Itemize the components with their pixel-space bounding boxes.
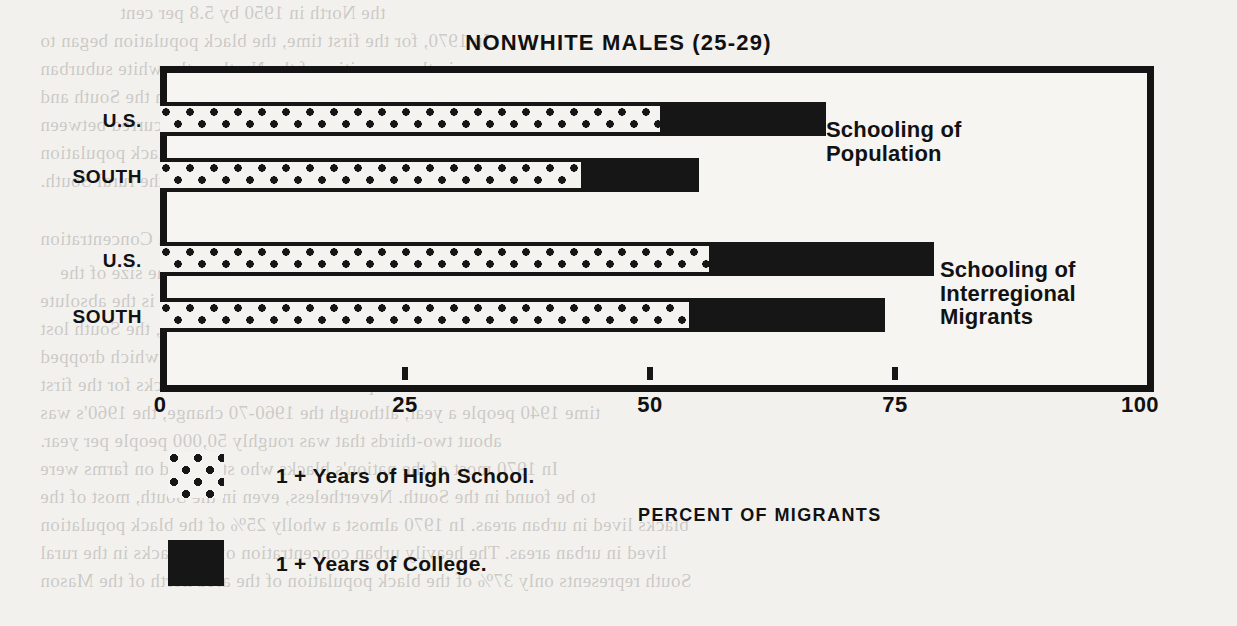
- x-axis-tick: [402, 367, 408, 380]
- bar-segment-high-school: [160, 102, 660, 136]
- bar-segment-high-school: [160, 158, 581, 192]
- category-label-3: SOUTH: [73, 306, 143, 328]
- legend-swatch-dotted-icon: [168, 452, 224, 498]
- legend-label-college: 1 + Years of College.: [276, 552, 487, 576]
- x-axis-tick: [892, 367, 898, 380]
- category-label-1: SOUTH: [73, 166, 143, 188]
- annotation-schooling-of-interregional-migrants: Schooling of Interregional Migrants: [940, 258, 1076, 329]
- category-label-2: U.S.: [103, 250, 142, 272]
- annotation-schooling-of-population: Schooling of Population: [826, 118, 962, 165]
- category-label-0: U.S.: [103, 110, 142, 132]
- x-axis-tick-label: 50: [637, 392, 662, 418]
- chart-title: NONWHITE MALES (25-29): [0, 30, 1237, 56]
- x-axis-tick-label: 100: [1121, 392, 1159, 418]
- x-axis-tick-label: 25: [392, 392, 417, 418]
- legend-swatch-solid-icon: [168, 540, 224, 586]
- x-axis: 0255075100: [160, 378, 1140, 438]
- bar-segment-high-school: [160, 242, 709, 276]
- x-axis-title: PERCENT OF MIGRANTS: [638, 505, 882, 526]
- bleed-text-line: to be found in the South. Nevertheless, …: [40, 486, 596, 508]
- x-axis-tick-label: 75: [882, 392, 907, 418]
- plot-area: [160, 73, 1140, 378]
- bar-segment-high-school: [160, 298, 689, 332]
- bleed-text-line: blacks lived in urban areas. In 1970 alm…: [40, 514, 689, 536]
- bleed-text-line: the North in 1950 by 5.8 per cent: [120, 2, 385, 24]
- legend-label-high-school: 1 + Years of High School.: [276, 464, 535, 488]
- x-axis-tick: [647, 367, 653, 380]
- x-axis-tick-label: 0: [154, 392, 167, 418]
